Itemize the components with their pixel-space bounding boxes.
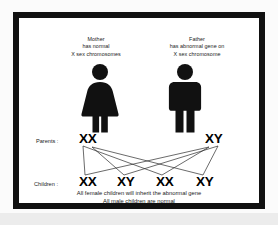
diagram-screenshot: Mother has normal X sex chromosomes Fath… <box>0 0 278 225</box>
conclusion-line-1: All female children will inherit the abn… <box>25 189 253 197</box>
child-genotype-1: XX <box>79 175 96 189</box>
picture-frame: Mother has normal X sex chromosomes Fath… <box>13 12 265 209</box>
father-role-label: Father <box>137 36 257 43</box>
child-genotype-3: XX <box>156 175 173 189</box>
child-genotype-4: XY <box>196 175 213 189</box>
female-figure-icon <box>73 63 127 133</box>
father-caption: Father has abnormal gene on X sex chromo… <box>137 36 257 58</box>
parent-genotype-mother: XX <box>79 132 96 146</box>
male-figure-icon <box>158 63 212 133</box>
father-figure <box>158 63 212 133</box>
father-description-line-1: has abnormal gene on <box>137 43 257 50</box>
conclusion-text: All female children will inherit the abn… <box>25 189 253 203</box>
child-genotype-2: XY <box>117 175 134 189</box>
mother-figure <box>73 63 127 133</box>
diagram-canvas: Mother has normal X sex chromosomes Fath… <box>19 18 259 203</box>
father-description-line-2: X sex chromosome <box>137 51 257 58</box>
parent-genotype-father: XY <box>205 132 222 146</box>
parents-row-label: Parents : <box>36 138 58 144</box>
conclusion-line-2: All male children are normal <box>25 197 253 203</box>
children-row-label: Children : <box>34 181 58 187</box>
